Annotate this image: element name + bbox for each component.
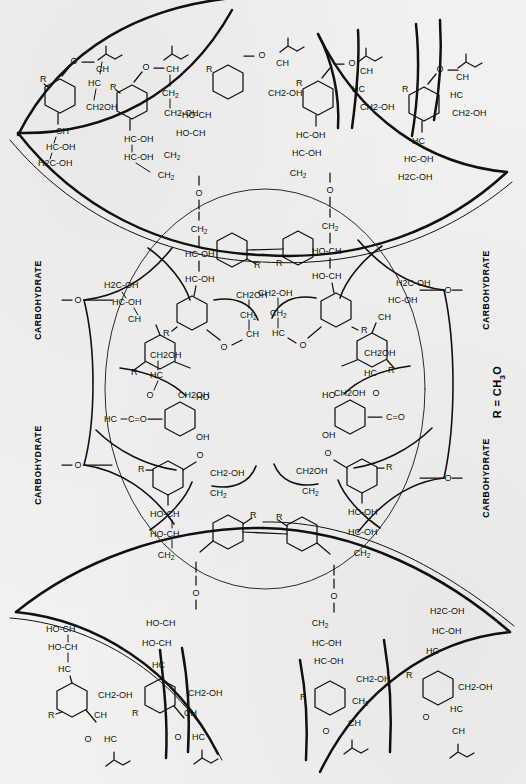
atom-ch2oh-ill: CH2-OH <box>210 468 245 478</box>
atom-o-ilr: O <box>324 448 331 458</box>
atom-hc-obr2: HC <box>426 646 439 656</box>
outer-unit-top-right-3: O CH HC CH2-OH R HC HC-OH H2C-OH <box>398 54 487 182</box>
atom-ch2oh-obr2: CH2-OH <box>458 682 493 692</box>
atom-hoch-obl1b: HO-CH <box>48 642 78 652</box>
atom-ch-otr3: CH <box>456 72 469 82</box>
atom-hcoh-otr3: HC-OH <box>404 154 434 164</box>
atom-ch2-otl2b: CH2 <box>158 170 175 181</box>
atom-hoch-otr1a: HO-CH <box>182 110 212 120</box>
atom-o-bridge-bottom-right: O <box>330 591 337 601</box>
atom-hc-otr3b: HC <box>412 136 425 146</box>
atom-o-iml: O <box>146 390 153 400</box>
inner-unit-top-left: CH2 HC-OH HC-OH R O CH CH2 CH2OH <box>163 212 268 352</box>
atom-o-otl1: O <box>70 56 77 66</box>
atom-o-obl2: O <box>174 732 181 742</box>
atom-hoch-itr-1: HO-CH <box>312 246 342 256</box>
atom-hc-iml: HC <box>150 370 163 380</box>
atom-hc-obl2: HC <box>152 660 165 670</box>
atom-o-otr1: O <box>258 50 265 60</box>
atom-ch-otl2: CH <box>166 64 179 74</box>
outer-unit-bottom-right-2: H2C-OH HC-OH HC R CH2-OH HC O CH <box>406 606 493 758</box>
atom-hcoh-otr2a: HC-OH <box>296 130 326 140</box>
outer-unit-bottom-right-1: CH2 HC-OH HC-OH R CH2-OH CH2 CH O <box>300 618 391 754</box>
atom-ch2-obr1b: CH2 <box>352 696 369 707</box>
atom-o-otr2: O <box>348 58 355 68</box>
atom-hoch-obl2b: HO-CH <box>142 638 172 648</box>
inner-unit-mid-right: CH2OH HC O C=O HO OH <box>322 348 432 468</box>
atom-ch-otl1b: CH <box>56 126 69 136</box>
secondary-thin-arcs <box>10 140 514 760</box>
outer-unit-bottom-left-2: HO-CH HO-CH HC R O CH2-OH CH HC <box>132 618 223 764</box>
atom-ch2-itl: CH2 <box>191 224 208 235</box>
atom-ch-obr1: CH <box>348 718 361 728</box>
atom-r-otr3: R <box>402 84 409 94</box>
atom-c-eq-o-iml: C=O <box>128 414 147 424</box>
atom-ch2-otl2: CH2 <box>162 88 179 99</box>
atom-ch-iur: CH <box>378 312 391 322</box>
atom-h2coh-otr3: H2C-OH <box>398 172 433 182</box>
atom-hcoh-ilr-1: HC-OH <box>348 507 378 517</box>
atom-ch2oh-iml: CH2OH <box>150 350 182 360</box>
atom-r-otr1: R <box>206 64 213 74</box>
atom-hcoh-otr2b: HC-OH <box>292 148 322 158</box>
atom-o-itl: O <box>220 342 227 352</box>
atom-r-itcl: R <box>254 260 261 270</box>
inner-unit-upper-right: R CH HC-OH H2C-OH CH2OH <box>334 278 431 398</box>
outer-unit-top-right-2: O CH HC CH2-OH R HC-OH HC-OH CH2 <box>290 48 395 179</box>
atom-ch2-otr2: CH2 <box>290 168 307 179</box>
atom-h2coh-otl1: H2C-OH <box>38 158 73 168</box>
atom-hc-otr2: HC <box>352 84 365 94</box>
atom-hc-obl2b: HC <box>192 732 205 742</box>
atom-hc-otr3: HC <box>450 90 463 100</box>
inner-unit-upper-left: R CH HC-OH H2C-OH CH2OH <box>104 280 210 400</box>
atom-o-obl1: O <box>84 734 91 744</box>
structure-diagram: O O O O O O O O <box>0 0 526 784</box>
atom-ch2oh-itr: CH2-OH <box>258 288 293 298</box>
atom-o-otl2: O <box>142 62 149 72</box>
atom-hc-obl1: HC <box>58 664 71 674</box>
atom-hcoh-otl2b: HC-OH <box>124 152 154 162</box>
atom-o-carb-left-1: O <box>74 295 81 305</box>
atom-ch-otl1: CH <box>96 64 109 74</box>
atom-ch2-itr: CH2 <box>322 221 339 232</box>
atom-r-itcr: R <box>276 258 283 268</box>
atom-ch-iul: CH <box>128 314 141 324</box>
inner-unit-bottom-left: R <box>196 510 257 572</box>
atom-hoch-obl2a: HO-CH <box>146 618 176 628</box>
atom-r-obr2: R <box>406 670 413 680</box>
atom-hc-obr2b: HC <box>450 704 463 714</box>
atom-hcoh-otl1: HC-OH <box>46 142 76 152</box>
atom-r-ill: R <box>138 464 145 474</box>
atom-r-obl2: R <box>132 708 139 718</box>
atom-ch2oh-obl2: CH2-OH <box>188 688 223 698</box>
atom-ch-obl2b: CH <box>184 708 197 718</box>
atom-ch2oh-otr2: CH2-OH <box>360 102 395 112</box>
atom-r-otr2: R <box>296 78 303 88</box>
atom-hc-imr: HC <box>364 368 377 378</box>
atom-oh-imr: OH <box>322 430 336 440</box>
atom-hcoh-itl-2: HC-OH <box>185 274 215 284</box>
atom-hc-itr: HC <box>272 328 285 338</box>
atom-o-otr3: O <box>436 64 443 74</box>
atom-hcoh-iur-1: HC-OH <box>388 295 418 305</box>
outer-lens-top-left <box>18 0 263 256</box>
atom-hoch-ill-2: HO-CH <box>150 529 180 539</box>
atom-o-bridge-top-left: O <box>195 188 202 198</box>
atom-hcoh-otl2a: HC-OH <box>124 134 154 144</box>
atom-r-itr: R <box>361 325 368 335</box>
outer-lens-bottom-right <box>263 528 510 772</box>
atom-hoch-otr1b: HO-CH <box>176 128 206 138</box>
atom-ch-obr2: CH <box>452 726 465 736</box>
atom-hcoh-obr1b: HC-OH <box>314 656 344 666</box>
atom-r-otl1: R <box>40 74 47 84</box>
atom-ch-otr1: CH <box>276 58 289 68</box>
atom-h2coh-obr2: H2C-OH <box>430 606 465 616</box>
atom-ch2oh-otl1: CH2OH <box>86 102 118 112</box>
atom-ch2oh-otr1: CH2-OH <box>268 88 303 98</box>
atom-ch2oh-imr: CH2OH <box>364 348 396 358</box>
inner-unit-lower-left: R HO-CH HO-CH CH2 O CH2-OH CH2 <box>138 450 245 561</box>
atom-ch2-ilr: CH2 <box>354 548 371 559</box>
atom-hc-iml-2: HC <box>104 414 117 424</box>
atom-hcoh-itl-1: HC-OH <box>185 249 215 259</box>
atom-ch2oh-obl1: CH2-OH <box>98 690 133 700</box>
